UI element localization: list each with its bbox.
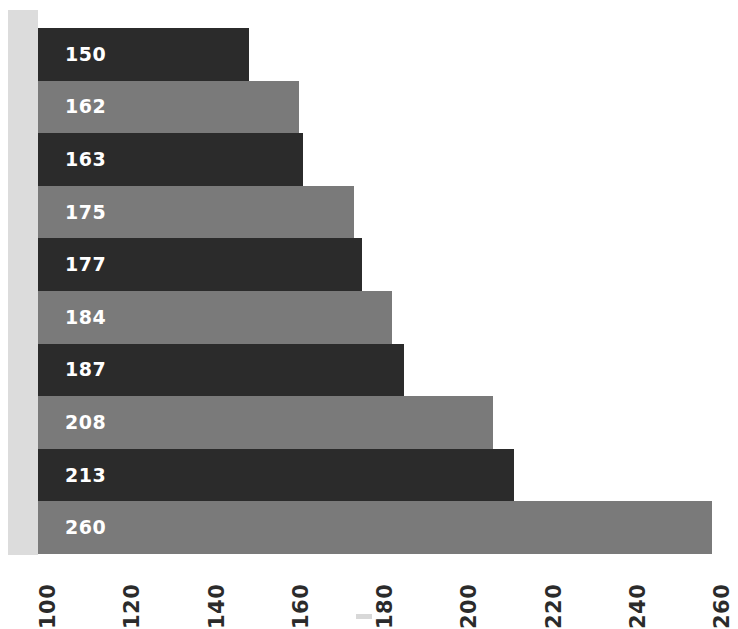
x-axis-tick-label: 220: [544, 534, 565, 581]
x-axis-tick-label: 260: [712, 534, 733, 581]
bar[interactable]: 208: [38, 396, 493, 449]
bar-value-label: 208: [65, 396, 106, 449]
bar[interactable]: 163: [38, 133, 303, 186]
left-background-band: [8, 10, 38, 555]
x-axis-tick-text: 260: [712, 582, 733, 629]
x-axis-tick-label: 180: [375, 534, 396, 581]
bar-row: 150: [38, 28, 738, 81]
bar-row: 175: [38, 186, 738, 239]
x-axis-tick-label: 120: [122, 534, 143, 581]
x-axis-tick-label: 200: [459, 534, 480, 581]
bar-row: 208: [38, 396, 738, 449]
x-axis-tick-label: 100: [38, 534, 59, 581]
x-axis-tick-text: 180: [375, 582, 396, 629]
bar[interactable]: 177: [38, 238, 362, 291]
x-axis-tick-text: 140: [207, 582, 228, 629]
x-axis-tick-text: 100: [38, 582, 59, 629]
bar-value-label: 163: [65, 133, 106, 186]
bar-value-label: 213: [65, 449, 106, 502]
bar-row: 177: [38, 238, 738, 291]
bar[interactable]: 162: [38, 81, 299, 134]
bar-value-label: 177: [65, 238, 106, 291]
bar[interactable]: 175: [38, 186, 354, 239]
bottom-edge-artifact: [356, 614, 372, 619]
plot-area: 150162163175177184187208213260: [38, 28, 738, 556]
bar[interactable]: 184: [38, 291, 392, 344]
bar-value-label: 187: [65, 344, 106, 397]
bar-value-label: 175: [65, 186, 106, 239]
bar-value-label: 162: [65, 81, 106, 134]
x-axis-tick-label: 160: [291, 534, 312, 581]
x-axis-tick-text: 120: [122, 582, 143, 629]
x-axis-tick-text: 220: [544, 582, 565, 629]
bar[interactable]: 213: [38, 449, 514, 502]
bar-value-label: 150: [65, 28, 106, 81]
bar-row: 184: [38, 291, 738, 344]
bar[interactable]: 187: [38, 344, 404, 397]
x-axis-tick-text: 240: [628, 582, 649, 629]
x-axis-tick-text: 200: [459, 582, 480, 629]
bar-row: 187: [38, 344, 738, 397]
x-axis-tick-label: 240: [628, 534, 649, 581]
bar-row: 163: [38, 133, 738, 186]
bar-row: 162: [38, 81, 738, 134]
bar-value-label: 184: [65, 291, 106, 344]
bar[interactable]: 150: [38, 28, 249, 81]
x-axis-tick-label: 140: [207, 534, 228, 581]
bar-row: 213: [38, 449, 738, 502]
x-axis-tick-text: 160: [291, 582, 312, 629]
bar-value-label: 260: [65, 501, 106, 554]
